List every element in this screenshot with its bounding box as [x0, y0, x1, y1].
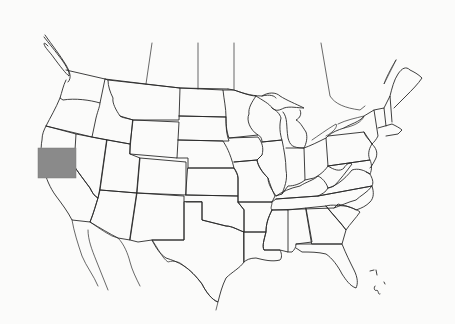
- highlight-rectangle: [38, 148, 76, 178]
- mexico-mainland-coast: [90, 222, 140, 286]
- louisiana-border: [244, 232, 282, 262]
- wisconsin-border: [256, 96, 282, 142]
- gulf-st-lawrence-coast: [384, 60, 396, 84]
- lake-erie: [312, 124, 337, 140]
- new-england-vt-nh: [374, 96, 392, 126]
- ohio-border: [304, 138, 328, 180]
- indiana-border: [282, 148, 305, 194]
- south-dakota-border: [178, 116, 229, 141]
- texas-border: [152, 202, 244, 302]
- new-york-border: [328, 110, 378, 144]
- oregon-border: [46, 98, 100, 137]
- us-outline-map: [0, 0, 455, 324]
- massachusetts-border: [378, 124, 402, 136]
- maine-border: [390, 68, 422, 108]
- florida-border: [296, 244, 357, 288]
- minnesota-border: [223, 90, 258, 138]
- wyoming-border: [130, 120, 179, 158]
- iowa-border: [229, 137, 263, 162]
- washington-border: [60, 79, 105, 103]
- new-mexico-border: [130, 193, 184, 242]
- island-2: [384, 282, 385, 284]
- us-mexico-border-texas: [152, 240, 218, 310]
- georgia-border: [306, 206, 346, 244]
- oklahoma-border: [186, 195, 244, 232]
- west-virginia-border: [328, 163, 352, 188]
- map-svg: [0, 0, 455, 324]
- arkansas-border: [238, 202, 272, 232]
- lake-ontario: [338, 116, 364, 128]
- kansas-border: [186, 168, 238, 196]
- new-jersey-border: [370, 144, 377, 168]
- michigan-lower-peninsula: [283, 110, 307, 148]
- island-1: [370, 270, 377, 275]
- vancouver-island: [44, 37, 69, 76]
- alabama-border: [288, 208, 312, 252]
- canada-province-line-1: [146, 43, 152, 84]
- canada-province-line-4: [321, 43, 365, 110]
- mississippi-border: [263, 210, 288, 252]
- island-3: [374, 286, 380, 294]
- north-dakota-border: [179, 88, 226, 117]
- colorado-border: [137, 158, 186, 195]
- canada-coast-north: [45, 35, 70, 82]
